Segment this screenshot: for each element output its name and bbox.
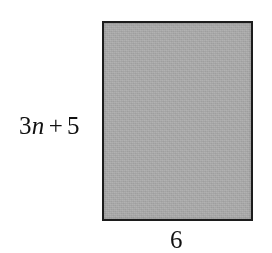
rectangle-fill-texture bbox=[104, 23, 251, 219]
height-coefficient: 3 bbox=[19, 112, 32, 139]
height-dimension-label: 3n+5 bbox=[19, 113, 80, 138]
height-variable: n bbox=[32, 112, 45, 139]
figure-canvas: 3n+5 6 bbox=[0, 0, 272, 253]
rectangle-inner-shading bbox=[104, 23, 251, 219]
height-operator: + bbox=[45, 112, 67, 139]
rectangle-shape bbox=[102, 21, 253, 221]
height-constant: 5 bbox=[67, 112, 80, 139]
width-dimension-label: 6 bbox=[170, 227, 183, 252]
